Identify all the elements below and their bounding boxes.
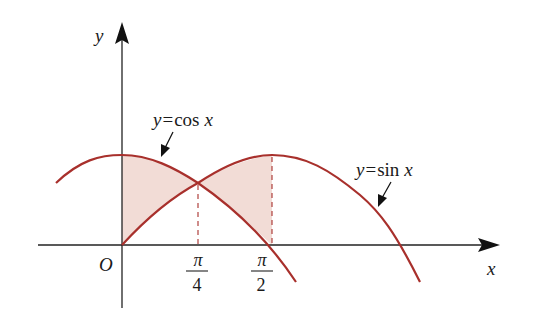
shaded-region-right [198,155,272,245]
shaded-region-left [122,155,198,245]
tick-pi2-numerator: π [257,250,267,270]
x-axis-label: x [486,258,496,279]
origin-label: O [99,254,113,275]
sin-label-arrow [382,182,391,198]
cos-label-arrow [165,132,173,148]
tick-pi2-denominator: 2 [257,275,266,295]
tick-pi4-numerator: π [193,250,203,270]
sin-curve-label: y=sinx [354,159,413,180]
tick-pi4-denominator: 4 [193,275,202,295]
cos-curve-label: y=cosx [151,109,213,130]
y-axis-label: y [93,25,104,46]
diagram-canvas: y x O π 4 π 2 y=cosx y=sinx [0,0,534,333]
